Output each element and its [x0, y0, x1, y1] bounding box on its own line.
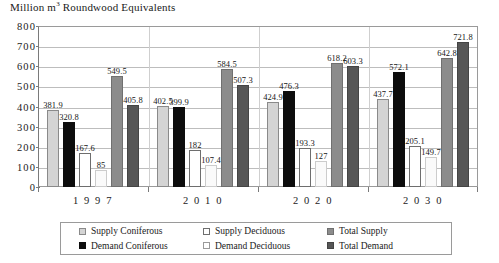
bar-d-coniferous-3[interactable]: 572.1 — [393, 72, 406, 187]
legend-item-label: Total Supply — [339, 226, 388, 236]
bar-s-deciduous-2[interactable]: 193.3 — [299, 148, 312, 187]
bar-value-label: 127 — [314, 151, 327, 161]
bar-total-supply-0[interactable]: 549.5 — [111, 76, 124, 187]
bar-total-demand-0[interactable]: 405.8 — [127, 105, 140, 187]
legend-item-total-demand[interactable]: Total Demand — [327, 241, 451, 251]
y-axis: 8007006005004003002001000 — [0, 26, 36, 187]
chart-title: Million m3 Roundwood Equivalents — [10, 1, 175, 13]
legend-swatch-icon — [327, 228, 334, 235]
bar-value-label: 399.9 — [169, 97, 189, 107]
y-axis-tick-label: 700 — [2, 41, 36, 52]
legend-item-label: Supply Deciduous — [215, 226, 285, 236]
chart-title-suffix: Roundwood Equivalents — [60, 1, 176, 13]
bar-s-coniferous-2[interactable]: 424.9 — [267, 102, 280, 188]
y-axis-tick-label: 100 — [2, 161, 36, 172]
y-axis-tick-label: 400 — [2, 101, 36, 112]
bar-value-label: 437.7 — [373, 89, 393, 99]
bar-value-label: 584.5 — [217, 59, 237, 69]
bar-value-label: 507.3 — [233, 75, 253, 85]
y-axis-tick-label: 300 — [2, 121, 36, 132]
bar-value-label: 549.5 — [107, 66, 127, 76]
legend-item-d-deciduous[interactable]: Demand Deciduous — [203, 241, 327, 251]
legend-item-label: Total Demand — [339, 241, 393, 251]
x-axis-category-label: 2 0 1 0 — [183, 195, 223, 206]
bar-value-label: 642.8 — [437, 48, 457, 58]
y-axis-tick-label: 500 — [2, 81, 36, 92]
chart-legend: Supply ConiferousSupply DeciduousTotal S… — [60, 222, 452, 255]
x-axis-category-label: 2 0 2 0 — [293, 195, 333, 206]
bar-d-coniferous-1[interactable]: 399.9 — [173, 107, 186, 187]
x-axis: 1 9 9 72 0 1 02 0 2 02 0 3 0 — [38, 187, 478, 215]
legend-swatch-icon — [79, 228, 86, 235]
bar-s-coniferous-1[interactable]: 402.5 — [157, 106, 170, 187]
x-axis-category-label: 2 0 3 0 — [403, 195, 443, 206]
legend-item-label: Demand Deciduous — [215, 241, 290, 251]
bar-value-label: 603.3 — [343, 56, 363, 66]
bar-value-label: 476.3 — [279, 81, 299, 91]
legend-item-s-deciduous[interactable]: Supply Deciduous — [203, 226, 327, 236]
bars-layer: 381.9320.8167.685549.5405.8402.5399.9182… — [38, 26, 478, 187]
bar-d-deciduous-2[interactable]: 127 — [315, 161, 328, 187]
bar-total-demand-3[interactable]: 721.8 — [457, 42, 470, 187]
bar-s-coniferous-3[interactable]: 437.7 — [377, 99, 390, 187]
y-axis-tick-label: 600 — [2, 61, 36, 72]
bar-value-label: 320.8 — [59, 112, 79, 122]
bar-value-label: 167.6 — [75, 143, 95, 153]
bar-value-label: 205.1 — [405, 136, 425, 146]
bar-value-label: 149.7 — [421, 147, 441, 157]
bar-value-label: 721.8 — [453, 32, 473, 42]
bar-d-deciduous-0[interactable]: 85 — [95, 170, 108, 187]
bar-value-label: 381.9 — [43, 100, 63, 110]
bar-d-coniferous-0[interactable]: 320.8 — [63, 122, 76, 187]
bar-value-label: 424.9 — [263, 92, 283, 102]
x-axis-category-label: 1 9 9 7 — [73, 195, 113, 206]
bar-value-label: 572.1 — [389, 62, 409, 72]
legend-item-d-coniferous[interactable]: Demand Coniferous — [79, 241, 203, 251]
x-axis-tick-mark — [38, 187, 39, 192]
bar-d-deciduous-3[interactable]: 149.7 — [425, 157, 438, 187]
legend-item-label: Supply Coniferous — [91, 226, 163, 236]
legend-swatch-icon — [203, 228, 210, 235]
bar-d-coniferous-2[interactable]: 476.3 — [283, 91, 296, 187]
legend-item-label: Demand Coniferous — [91, 241, 168, 251]
x-axis-tick-mark — [368, 187, 369, 192]
bar-value-label: 182 — [188, 140, 201, 150]
bar-s-coniferous-0[interactable]: 381.9 — [47, 110, 60, 187]
bar-total-supply-1[interactable]: 584.5 — [221, 69, 234, 187]
legend-swatch-icon — [327, 242, 334, 249]
bar-value-label: 193.3 — [295, 138, 315, 148]
bar-s-deciduous-0[interactable]: 167.6 — [79, 153, 92, 187]
bar-d-deciduous-1[interactable]: 107.4 — [205, 165, 218, 187]
bar-total-supply-2[interactable]: 618.2 — [331, 63, 344, 187]
x-axis-tick-mark — [258, 187, 259, 192]
bar-s-deciduous-1[interactable]: 182 — [189, 150, 202, 187]
x-axis-tick-mark — [477, 187, 478, 192]
bar-value-label: 107.4 — [201, 155, 221, 165]
bar-total-demand-1[interactable]: 507.3 — [237, 85, 250, 187]
legend-swatch-icon — [79, 242, 86, 249]
x-axis-tick-mark — [148, 187, 149, 192]
y-axis-tick-label: 0 — [2, 182, 36, 193]
legend-item-s-coniferous[interactable]: Supply Coniferous — [79, 226, 203, 236]
bar-value-label: 85 — [97, 160, 106, 170]
legend-swatch-icon — [203, 242, 210, 249]
y-axis-tick-label: 200 — [2, 141, 36, 152]
bar-value-label: 405.8 — [123, 95, 143, 105]
bar-total-supply-3[interactable]: 642.8 — [441, 58, 454, 187]
bar-s-deciduous-3[interactable]: 205.1 — [409, 146, 422, 187]
chart-title-prefix: Million m — [10, 1, 56, 13]
bar-total-demand-2[interactable]: 603.3 — [347, 66, 360, 187]
y-axis-tick-label: 800 — [2, 21, 36, 32]
legend-item-total-supply[interactable]: Total Supply — [327, 226, 451, 236]
